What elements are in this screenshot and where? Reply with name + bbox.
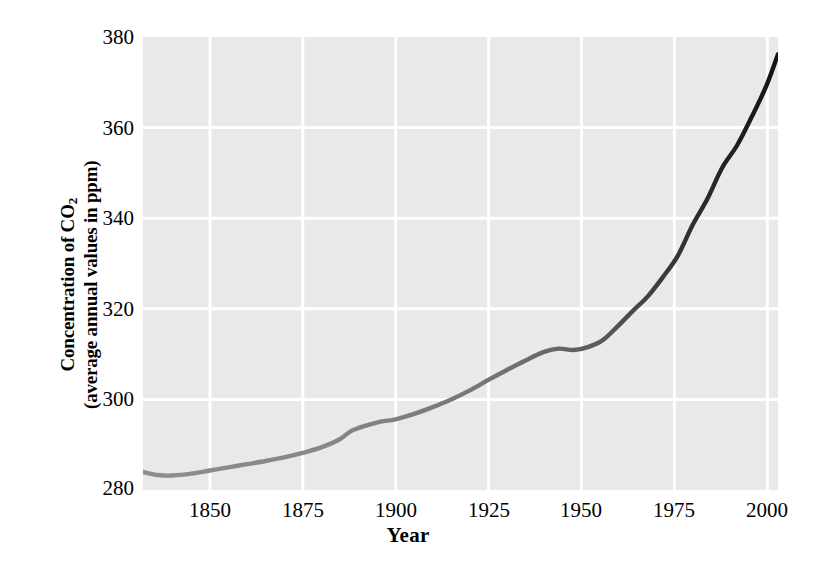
x-tick-2000: 2000 <box>722 500 812 521</box>
co2-concentration-chart: Concentration of CO2 (average annual val… <box>0 0 816 568</box>
x-tick-1900: 1900 <box>351 500 441 521</box>
x-tick-1950: 1950 <box>536 500 626 521</box>
x-axis-title: Year <box>0 523 816 548</box>
x-tick-1850: 1850 <box>165 500 255 521</box>
x-axis-tick-labels: 1850 1875 1900 1925 1950 1975 2000 <box>0 0 816 568</box>
x-tick-1925: 1925 <box>444 500 534 521</box>
x-tick-1875: 1875 <box>258 500 348 521</box>
x-tick-1975: 1975 <box>629 500 719 521</box>
